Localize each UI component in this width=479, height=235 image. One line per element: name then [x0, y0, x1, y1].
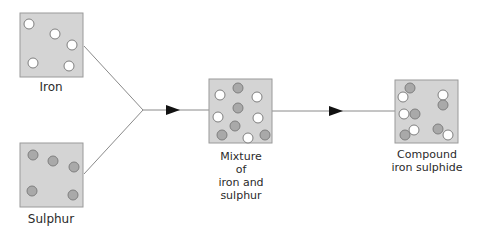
iron-label: Iron	[11, 81, 91, 94]
arrowhead-icon	[329, 106, 343, 116]
iron-to-junction-line	[84, 46, 143, 110]
iron-particle	[24, 19, 34, 29]
iron-particle	[253, 113, 263, 123]
iron-box	[20, 13, 83, 77]
arrowhead-icon	[166, 105, 180, 115]
mixture-box	[209, 79, 272, 143]
compound-box	[395, 80, 458, 143]
sulphur-box	[20, 143, 83, 207]
sulphur-particle	[48, 156, 58, 166]
sulphur-label: Sulphur	[11, 213, 91, 226]
mixture-label: Mixture of iron and sulphur	[200, 150, 282, 202]
iron-particle	[67, 40, 77, 50]
sulphur-to-junction-line	[84, 110, 143, 174]
compound-label: Compound iron sulphide	[378, 148, 476, 174]
iron-particle	[64, 61, 74, 71]
iron-particle	[50, 29, 60, 39]
iron-particle	[252, 92, 262, 102]
sulphur-particle	[233, 83, 243, 93]
iron-particle	[215, 90, 225, 100]
sulphur-particle	[233, 103, 243, 113]
sulphur-particle	[69, 162, 79, 172]
sulphur-particle	[230, 121, 240, 131]
sulphur-particle	[217, 130, 227, 140]
iron-particle	[213, 112, 223, 122]
sulphur-particle	[68, 190, 78, 200]
iron-particle	[243, 133, 253, 143]
sulphur-particle	[27, 186, 37, 196]
sulphur-particle	[28, 150, 38, 160]
sulphur-particle	[260, 130, 270, 140]
iron-particle	[28, 58, 38, 68]
